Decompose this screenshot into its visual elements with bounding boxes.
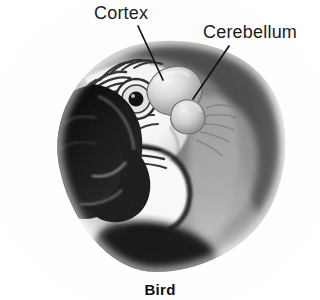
figure-caption: Bird (0, 281, 320, 298)
bird-brain-figure: Cortex Cerebellum Bird (0, 0, 320, 300)
label-cerebellum: Cerebellum (203, 22, 297, 43)
bird-head-illustration (0, 0, 320, 300)
label-cortex: Cortex (94, 3, 148, 24)
